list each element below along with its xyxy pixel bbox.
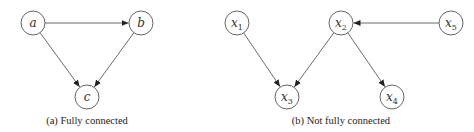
node-x4: x4 bbox=[380, 85, 404, 109]
nodes-layer: abcx1x2x5x3x4 bbox=[21, 11, 463, 109]
edge-x2-to-x4 bbox=[348, 33, 385, 87]
node-label: c bbox=[84, 90, 91, 104]
node-c: c bbox=[75, 85, 99, 109]
edge-b-to-c bbox=[94, 33, 134, 87]
node-x3: x3 bbox=[275, 85, 299, 109]
node-x2: x2 bbox=[329, 11, 353, 35]
node-x5: x5 bbox=[439, 11, 463, 35]
captions-layer: (a) Fully connected(b) Not fully connect… bbox=[46, 115, 391, 127]
edge-x1-to-x3 bbox=[244, 33, 280, 87]
edge-a-to-c bbox=[40, 33, 80, 87]
node-a: a bbox=[21, 11, 45, 35]
node-b: b bbox=[129, 11, 153, 35]
node-label: a bbox=[29, 16, 36, 30]
node-label: b bbox=[137, 16, 145, 30]
edge-x2-to-x3 bbox=[294, 33, 334, 87]
diagram-canvas: abcx1x2x5x3x4 (a) Fully connected(b) Not… bbox=[0, 0, 474, 132]
caption-a: (a) Fully connected bbox=[46, 115, 128, 127]
caption-b: (b) Not fully connected bbox=[292, 115, 391, 127]
node-x1: x1 bbox=[225, 11, 249, 35]
